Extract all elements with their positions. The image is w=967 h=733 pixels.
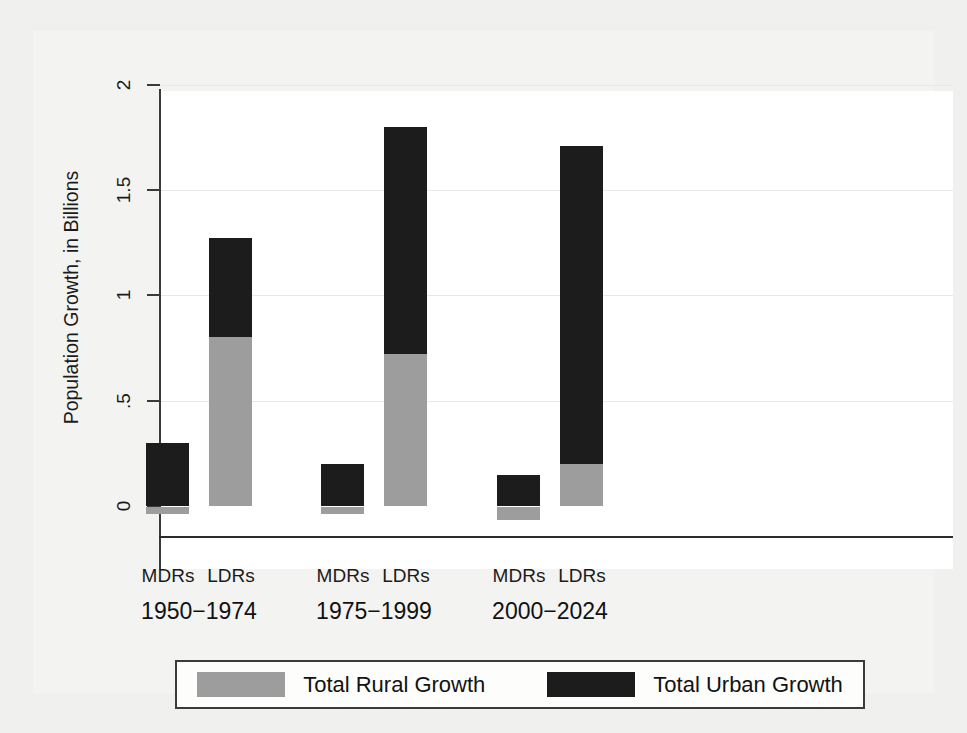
legend-swatch-urban-icon (547, 672, 635, 697)
y-tick-mark-1-5 (147, 189, 160, 191)
bar-1975-1999-mdrs-rural (321, 507, 364, 514)
plot-area (159, 91, 953, 539)
gridline-1 (161, 295, 953, 296)
chart-legend: Total Rural Growth Total Urban Growth (175, 660, 865, 709)
y-tick-label-2: 2 (113, 65, 135, 105)
x-label-group3-ldrs: LDRs (542, 565, 622, 587)
bar-2000-2024-mdrs-rural (497, 507, 540, 520)
x-group-label-1975-1999: 1975−1999 (304, 598, 444, 625)
y-tick-mark-0-5 (147, 400, 160, 402)
gridline-0-5 (161, 401, 953, 402)
bar-1950-1974-mdrs-rural (146, 507, 189, 514)
x-group-label-2000-2024: 2000−2024 (480, 598, 620, 625)
y-tick-mark-1 (147, 294, 160, 296)
x-label-group2-ldrs: LDRs (366, 565, 446, 587)
bar-1950-1974-mdrs-urban (146, 443, 189, 506)
y-tick-label-0-5: .5 (113, 381, 135, 421)
legend-swatch-rural-icon (197, 672, 285, 697)
y-tick-mark-2 (147, 84, 160, 86)
x-label-group1-ldrs: LDRs (191, 565, 271, 587)
bar-1950-1974-ldrs-urban (209, 238, 252, 337)
bar-1975-1999-mdrs-urban (321, 464, 364, 506)
chart-screenshot: 2 1.5 1 .5 0 Population Growth, in Billi… (0, 0, 967, 733)
x-axis-zero-line (159, 536, 953, 538)
legend-item-rural: Total Rural Growth (197, 672, 485, 698)
bar-1975-1999-ldrs-urban (384, 127, 427, 354)
x-group-label-1950-1974: 1950−1974 (129, 598, 269, 625)
y-tick-label-1: 1 (113, 275, 135, 315)
gridline-2 (161, 85, 953, 86)
y-axis-title: Population Growth, in Billions (60, 168, 83, 428)
legend-label-urban: Total Urban Growth (653, 672, 843, 698)
legend-item-urban: Total Urban Growth (547, 672, 843, 698)
bar-1975-1999-ldrs-rural (384, 354, 427, 506)
y-tick-label-0: 0 (113, 486, 135, 526)
bar-2000-2024-mdrs-urban (497, 475, 540, 506)
bar-2000-2024-ldrs-rural (560, 464, 603, 506)
figure-canvas: 2 1.5 1 .5 0 Population Growth, in Billi… (33, 31, 934, 693)
legend-label-rural: Total Rural Growth (303, 672, 485, 698)
bar-2000-2024-ldrs-urban (560, 146, 603, 464)
gridline-1-5 (161, 190, 953, 191)
y-tick-label-1-5: 1.5 (113, 170, 135, 210)
bar-1950-1974-ldrs-rural (209, 337, 252, 506)
